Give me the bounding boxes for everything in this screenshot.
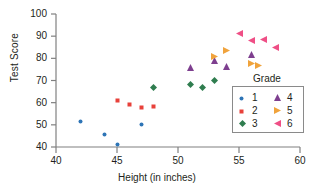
legend-item-label: 6: [287, 118, 293, 129]
data-point: [102, 123, 107, 141]
data-point: [248, 30, 255, 48]
legend-item-label: 3: [252, 118, 258, 129]
legend-item-5[interactable]: 5: [274, 104, 304, 116]
x-axis-label: Height (in inches): [0, 172, 314, 183]
data-point: [223, 40, 230, 58]
legend-item-3[interactable]: 3: [239, 117, 269, 129]
y-tick-label: 40: [19, 141, 47, 152]
legend-item-6[interactable]: 6: [274, 117, 304, 129]
legend-item-1[interactable]: 1: [239, 91, 269, 103]
data-point: [78, 110, 83, 128]
data-point: [139, 113, 144, 131]
legend-item-2[interactable]: 2: [239, 104, 269, 116]
data-point: [139, 96, 144, 114]
legend-marker-icon: [239, 92, 249, 103]
data-point: [223, 56, 230, 74]
y-tick-label: 90: [19, 30, 47, 41]
legend-marker-icon: [239, 118, 249, 129]
y-tick-label: 80: [19, 52, 47, 63]
data-point: [255, 55, 262, 73]
legend-item-label: 2: [252, 105, 258, 116]
x-tick-label: 55: [226, 155, 252, 166]
data-point: [199, 77, 206, 95]
legend-item-label: 1: [252, 92, 258, 103]
data-point: [187, 57, 194, 75]
x-tick-label: 60: [287, 155, 313, 166]
data-point: [150, 77, 157, 95]
y-tick-label: 50: [19, 119, 47, 130]
data-point: [211, 46, 218, 64]
x-tick-label: 50: [165, 155, 191, 166]
data-point: [236, 23, 243, 41]
y-tick-label: 60: [19, 97, 47, 108]
legend-item-label: 5: [287, 105, 293, 116]
data-point: [260, 29, 267, 47]
data-point: [187, 74, 194, 92]
data-point: [127, 93, 132, 111]
y-axis-label: Test Score: [9, 18, 20, 98]
data-point: [211, 70, 218, 88]
legend-marker-icon: [274, 105, 284, 116]
y-tick-label: 100: [19, 8, 47, 19]
legend-marker-icon: [274, 118, 284, 129]
data-point: [248, 53, 255, 71]
legend-marker-icon: [239, 105, 249, 116]
legend-item-4[interactable]: 4: [274, 91, 304, 103]
x-tick-label: 40: [43, 155, 69, 166]
data-point: [272, 37, 279, 55]
data-point: [115, 89, 120, 107]
data-point: [151, 95, 156, 113]
data-point: [115, 133, 120, 151]
y-tick-label: 70: [19, 75, 47, 86]
legend-item-label: 4: [287, 92, 293, 103]
legend-title: Grade: [232, 73, 302, 84]
legend-marker-icon: [274, 92, 284, 103]
x-tick-label: 45: [104, 155, 130, 166]
scatter-plot: Test Score Height (in inches) 4050607080…: [0, 0, 314, 195]
